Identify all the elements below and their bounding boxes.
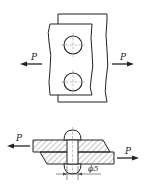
load-arrow-left-top: P	[20, 52, 42, 67]
riveted-joint-diagram: P P P P	[0, 0, 146, 184]
load-label-left-top: P	[30, 52, 38, 62]
load-label-right-section: P	[124, 146, 132, 156]
load-arrow-right-top: P	[112, 52, 134, 67]
load-label-right-top: P	[119, 52, 127, 62]
section-view: P P ϕ5	[7, 127, 139, 180]
load-arrow-right-section: P	[117, 146, 139, 161]
load-arrow-left-section: P	[7, 133, 30, 149]
load-label-left-section: P	[15, 133, 23, 143]
top-view: P P	[20, 14, 134, 102]
rivet-diameter-label: ϕ5	[88, 164, 99, 173]
